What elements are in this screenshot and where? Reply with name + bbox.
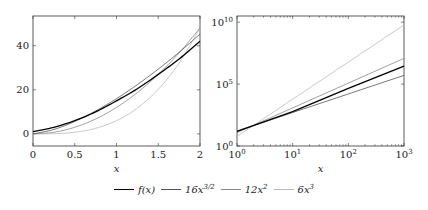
series-line-2 xyxy=(33,28,200,134)
left-plot-series xyxy=(33,28,200,134)
left-plot-ticks: 00.511.5202040 xyxy=(16,16,203,160)
x-tick-label: 102 xyxy=(340,148,357,160)
y-tick-label: 40 xyxy=(16,40,29,51)
series-line-3 xyxy=(237,25,404,136)
legend-item-6x3: 6x3 xyxy=(274,184,314,195)
series-line-0 xyxy=(33,41,200,131)
legend-item-12x2: 12x2 xyxy=(221,184,268,195)
legend: f(x) 16x3/2 12x2 6x3 xyxy=(0,184,428,195)
legend-line-f xyxy=(114,189,134,190)
legend-label-12x2: 12x2 xyxy=(245,184,268,195)
legend-item-f: f(x) xyxy=(114,184,155,195)
x-tick-label: 2 xyxy=(197,149,203,160)
y-tick-label: 0 xyxy=(23,128,29,139)
right-plot-series xyxy=(237,25,404,136)
y-tick-label: 105 xyxy=(216,78,233,90)
legend-item-16x32: 16x3/2 xyxy=(161,184,215,195)
x-tick-label: 0 xyxy=(30,149,36,160)
left-plot-xlabel: x xyxy=(114,163,120,174)
chart-canvas: 00.511.5202040 x 1001011021031001051010 … xyxy=(0,0,428,210)
legend-line-6x3 xyxy=(274,189,294,190)
loglog-plot: 1001011021031001051010 x xyxy=(211,16,412,174)
x-tick-label: 0.5 xyxy=(67,149,83,160)
x-tick-label: 101 xyxy=(284,148,301,160)
series-line-1 xyxy=(33,34,200,134)
legend-label-6x3: 6x3 xyxy=(298,184,314,195)
x-tick-label: 1.5 xyxy=(150,149,166,160)
x-tick-label: 1 xyxy=(113,149,119,160)
x-tick-label: 103 xyxy=(395,148,412,160)
legend-line-12x2 xyxy=(221,189,241,190)
legend-label-16x32: 16x3/2 xyxy=(185,184,215,195)
y-tick-label: 20 xyxy=(16,84,29,95)
legend-label-f: f(x) xyxy=(138,184,155,195)
right-plot-ticks: 1001011021031001051010 xyxy=(211,16,412,160)
series-line-2 xyxy=(237,58,404,132)
legend-line-16x32 xyxy=(161,189,181,190)
series-line-3 xyxy=(33,28,200,134)
linear-plot: 00.511.5202040 x xyxy=(16,16,203,174)
x-tick-label: 100 xyxy=(228,148,245,160)
right-plot-xlabel: x xyxy=(318,163,324,174)
y-tick-label: 1010 xyxy=(211,16,233,28)
